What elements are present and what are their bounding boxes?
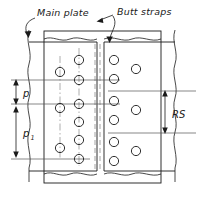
butt-strap-outline	[44, 31, 161, 183]
dimension-p1-label: p	[22, 128, 29, 139]
rivet-hole	[109, 137, 118, 146]
leader-main-plate: Main plate	[25, 7, 89, 38]
butt-joint-drawing: p p 1 RS	[0, 0, 204, 202]
dimension-p1-arrow-top	[13, 106, 19, 113]
main-plate-outlines	[29, 42, 175, 171]
rivet-hole	[131, 105, 140, 114]
butt-strap-rect	[44, 31, 161, 183]
rivet-holes-right-inner	[109, 55, 118, 165]
drawing-canvas: p p 1 RS	[0, 0, 204, 202]
rivet-hole	[109, 115, 118, 124]
rivet-hole	[109, 74, 118, 83]
rivet-hole	[131, 146, 140, 155]
dimension-rs-label: RS	[172, 109, 186, 120]
dimension-p1-arrow-bottom	[13, 152, 19, 159]
butt-joint-gap	[95, 44, 100, 170]
break-line-right	[174, 30, 176, 182]
rivet-column-center-lines	[60, 48, 79, 166]
dimension-p: p	[13, 79, 29, 105]
dimension-p1-subscript: 1	[31, 134, 35, 142]
dimension-rs: RS	[162, 90, 186, 134]
rivet-hole	[109, 156, 118, 165]
break-line-bottom-right	[104, 173, 161, 175]
break-line-top-left	[44, 38, 97, 40]
break-line-top-right	[104, 38, 161, 40]
rivet-hole	[131, 64, 140, 73]
leader-butt-straps: Butt straps	[97, 6, 172, 43]
main-plate-label: Main plate	[37, 7, 89, 18]
dimension-p1: p 1	[13, 106, 34, 158]
break-line-bottom-left	[44, 173, 97, 175]
leader-arrow-butt-strap-outer	[97, 18, 104, 23]
leader-arrow-main-plate	[25, 31, 32, 38]
dimension-extension-lines	[11, 80, 196, 159]
leader-line-butt-strap-inner	[110, 16, 115, 38]
dimension-p-label: p	[22, 88, 29, 99]
butt-straps-label: Butt straps	[117, 6, 172, 17]
rivet-holes-right-outer	[131, 64, 140, 155]
rivet-hole	[109, 55, 118, 64]
